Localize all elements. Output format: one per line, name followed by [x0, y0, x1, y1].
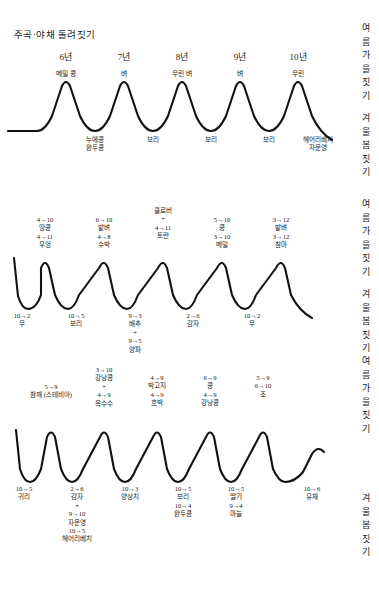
valley-crop-label: 10→5 보리 — [68, 312, 84, 329]
valley-crop-label: 보리 — [263, 136, 275, 144]
valley-crop-label: 10→3 양상치 — [121, 485, 139, 502]
crop-line: 보리 — [147, 136, 159, 144]
crop-line: 딸기 — [228, 493, 244, 501]
crop-line: 10→2 — [14, 312, 30, 320]
rotation-row-1: 6년 7년 8년 9년 10년 메밀 콩 벼 무린 벼 벼 무린 누에콩 완두콩… — [0, 0, 379, 170]
crop-line: 헤어리베치 — [62, 535, 92, 543]
crop-line: 누에콩 — [86, 136, 104, 144]
crop-line: 9→4 — [228, 502, 244, 510]
valley-crop-label: 10→6 유채 — [304, 485, 320, 502]
rotation-wave-3 — [0, 352, 379, 597]
valley-crop-label: 2→6 감자 + 9→10 자운영 10→5 헤어리베치 — [62, 485, 92, 544]
crop-line: 마늘 — [228, 510, 244, 518]
rotation-wave-2 — [0, 196, 379, 356]
rotation-row-3: 5→9 참깨 (스테비아) 3→10 강낭콩 + 4→9 옥수수 4→9 박고지… — [0, 352, 379, 597]
crop-line: 보리 — [174, 493, 192, 501]
crop-line: 9→10 — [62, 510, 92, 518]
crop-line: + — [62, 502, 92, 510]
valley-crop-label: 헤어리베치 자운영 — [303, 136, 333, 153]
valley-crop-label: 보리 — [147, 136, 159, 144]
valley-crop-label: 10→5 보리 10→4 완두콩 — [174, 485, 192, 519]
crop-line: 자운영 — [62, 519, 92, 527]
crop-line: 감자 — [62, 493, 92, 501]
crop-line: 귀리 — [16, 493, 32, 501]
valley-crop-label: 10→5 딸기 9→4 마늘 — [228, 485, 244, 519]
valley-crop-label: 10→5 귀리 — [16, 485, 32, 502]
crop-line: 양상치 — [121, 493, 139, 501]
crop-line: 10→2 — [244, 312, 260, 320]
crop-line: 유채 — [304, 493, 320, 501]
crop-line: 완두콩 — [174, 510, 192, 518]
crop-line: 보리 — [205, 136, 217, 144]
crop-line: 10→4 — [174, 502, 192, 510]
valley-crop-label: 누에콩 완두콩 — [86, 136, 104, 153]
crop-line: 무 — [14, 320, 30, 328]
valley-crop-label: 보리 — [205, 136, 217, 144]
crop-line: 9→5 — [128, 337, 141, 345]
crop-line: 완두콩 — [86, 144, 104, 152]
crop-line: 보리 — [263, 136, 275, 144]
valley-crop-label: 10→2 무 — [14, 312, 30, 329]
valley-crop-label: 2→6 감자 — [186, 312, 199, 329]
crop-line: 무 — [244, 320, 260, 328]
crop-line: + — [128, 329, 141, 337]
crop-line: 보리 — [68, 320, 84, 328]
crop-line: 배추 — [128, 320, 141, 328]
crop-rotation-figure: 주곡·야채 돌려짓기 여 름 가 을 짓 기 겨 울 봄 짓 기 여 름 가 을… — [0, 0, 379, 597]
valley-crop-label: 10→2 무 — [244, 312, 260, 329]
crop-line: 10→6 — [304, 485, 320, 493]
crop-line: 자운영 — [303, 144, 333, 152]
crop-line: 감자 — [186, 320, 199, 328]
valley-crop-label: 9→3 배추 + 9→5 양파 — [128, 312, 141, 354]
rotation-row-2: 4→10 땅콩 4→11 우엉 6→10 밭벼 4→8 수박 클로버 + 4→1… — [0, 196, 379, 351]
